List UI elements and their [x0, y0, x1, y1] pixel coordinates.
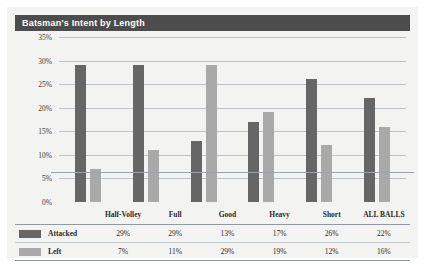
y-axis-tick-label: 10%: [38, 150, 52, 159]
series-label: Attacked: [45, 225, 97, 243]
y-axis-tick-label: 15%: [38, 127, 52, 136]
bar-attacked: [364, 98, 375, 202]
table-column-header: Short: [306, 206, 358, 225]
legend-swatch-left: [19, 248, 41, 256]
table-cell-value: 26%: [306, 225, 358, 243]
table-cell-value: 29%: [149, 225, 201, 243]
table-cell-value: 13%: [201, 225, 253, 243]
chart-card: Batsman's Intent by Length 35%30%25%20%1…: [7, 7, 418, 258]
bar-left: [148, 150, 159, 202]
y-axis-tick-label: 30%: [38, 56, 52, 65]
bar-left: [379, 127, 390, 202]
table-cell-value: 17%: [253, 225, 305, 243]
bar-attacked: [133, 65, 144, 202]
data-table: Half-VolleyFullGoodHeavyShortALL BALLS A…: [15, 206, 410, 261]
bar-groups: [59, 37, 406, 202]
table-cell-value: 11%: [149, 243, 201, 261]
chart-title-bar: Batsman's Intent by Length: [15, 15, 410, 31]
plot-canvas: [59, 37, 406, 202]
table-column-header: Full: [149, 206, 201, 225]
table-cell-value: 19%: [253, 243, 305, 261]
series-label: Left: [45, 243, 97, 261]
bar-left: [321, 145, 332, 202]
bar-attacked: [248, 122, 259, 202]
bar-group-half-volley: [59, 37, 117, 202]
table-column-header: Good: [201, 206, 253, 225]
bar-group-heavy: [232, 37, 290, 202]
y-axis-tick-label: 35%: [38, 33, 52, 42]
legend-swatch-cell: [15, 225, 45, 243]
bar-group-short: [290, 37, 348, 202]
plot-area: 35%30%25%20%15%10%5%0%: [15, 37, 410, 212]
header-swatch-spacer: [15, 206, 45, 225]
y-axis-tick-label: 20%: [38, 103, 52, 112]
y-axis-tick-label: 5%: [42, 174, 52, 183]
table-cell-value: 29%: [201, 243, 253, 261]
bar-left: [263, 112, 274, 202]
table-cell-value: 29%: [97, 225, 149, 243]
y-axis: 35%30%25%20%15%10%5%0%: [15, 37, 55, 202]
table-cell-value: 22%: [358, 225, 410, 243]
y-axis-tick-label: 25%: [38, 80, 52, 89]
page-title: Batsman's Intent by Length: [15, 18, 145, 28]
table-header-row: Half-VolleyFullGoodHeavyShortALL BALLS: [15, 206, 410, 225]
header-series-spacer: [45, 206, 97, 225]
table-column-header: Heavy: [253, 206, 305, 225]
table-row: Left7%11%29%19%12%16%: [15, 243, 410, 261]
table-cell-value: 16%: [358, 243, 410, 261]
x-axis-line: [51, 172, 414, 173]
bar-group-full: [117, 37, 175, 202]
table-column-header: ALL BALLS: [358, 206, 410, 225]
table-cell-value: 12%: [306, 243, 358, 261]
table-body: Attacked29%29%13%17%26%22%Left7%11%29%19…: [15, 225, 410, 261]
legend-swatch-attacked: [19, 230, 41, 238]
legend-swatch-cell: [15, 243, 45, 261]
bar-left: [90, 169, 101, 202]
bar-attacked: [306, 79, 317, 202]
table-row: Attacked29%29%13%17%26%22%: [15, 225, 410, 243]
bar-group-all-balls: [348, 37, 406, 202]
bar-left: [206, 65, 217, 202]
table-cell-value: 7%: [97, 243, 149, 261]
bar-attacked: [75, 65, 86, 202]
bar-group-good: [175, 37, 233, 202]
table-column-header: Half-Volley: [97, 206, 149, 225]
